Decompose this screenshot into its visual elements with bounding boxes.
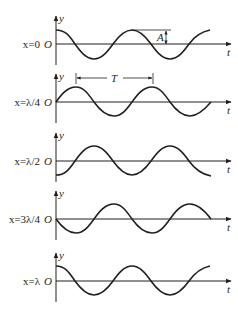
panel-x-three-quarter-lambda: y t O x=3λ/4 xyxy=(9,187,231,240)
period-label: T xyxy=(111,72,118,84)
amplitude-label: A xyxy=(156,31,164,43)
origin-label: O xyxy=(44,96,52,108)
panel-label: x=λ/4 xyxy=(14,96,40,108)
t-axis-label: t xyxy=(227,283,231,295)
origin-label: O xyxy=(44,155,52,167)
y-axis-label: y xyxy=(58,129,64,141)
t-axis-label: t xyxy=(227,163,231,175)
t-axis-label: t xyxy=(227,104,231,116)
panel-x-half-lambda: y t O x=λ/2 xyxy=(14,129,231,182)
y-axis-label: y xyxy=(58,12,64,24)
y-axis-label: y xyxy=(58,249,64,261)
panel-x-lambda: y t O x=λ xyxy=(23,249,231,302)
origin-label: O xyxy=(44,213,52,225)
origin-label: O xyxy=(44,38,52,50)
panel-x0: y t O x=0 A xyxy=(23,12,231,65)
t-axis-label: t xyxy=(227,46,231,58)
y-axis-label: y xyxy=(58,187,64,199)
panel-label: x=3λ/4 xyxy=(9,213,41,225)
wave-diagram: y t O x=0 A y t O x=λ/4 T y t O x=λ/2 xyxy=(0,0,238,316)
y-axis-label: y xyxy=(58,70,64,82)
panel-label: x=λ xyxy=(23,275,41,287)
panel-x-quarter-lambda: y t O x=λ/4 T xyxy=(14,70,231,123)
panel-label: x=0 xyxy=(23,38,41,50)
origin-label: O xyxy=(44,275,52,287)
panel-label: x=λ/2 xyxy=(14,155,40,167)
t-axis-label: t xyxy=(227,221,231,233)
